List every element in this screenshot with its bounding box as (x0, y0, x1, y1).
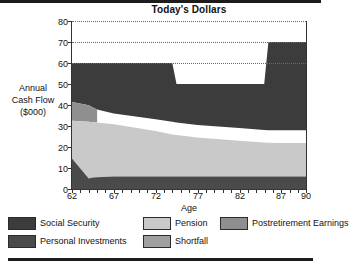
y-tick-label-70: 70 (42, 38, 68, 48)
x-tick-mark-65 (97, 189, 98, 193)
x-tick-mark-73 (164, 189, 165, 193)
y-tick-mark-60 (68, 63, 72, 64)
legend-swatch-shortfall (143, 235, 171, 248)
x-tick-mark-85 (265, 189, 266, 193)
x-tick-mark-70 (139, 189, 140, 193)
x-tick-mark-77 (198, 189, 199, 193)
x-tick-mark-82 (240, 189, 241, 193)
x-tick-mark-86 (273, 189, 274, 193)
y-tick-mark-40 (68, 105, 72, 106)
x-tick-mark-81 (231, 189, 232, 193)
y-tick-mark-80 (68, 21, 72, 22)
bottom-rule (8, 258, 313, 261)
x-tick-mark-89 (298, 189, 299, 193)
legend-swatch-postretirement-earnings (220, 217, 248, 230)
y-tick-label-10: 10 (42, 164, 68, 174)
chart-legend: Social Security Personal Investments Pen… (8, 216, 313, 252)
y-tick-label-20: 20 (42, 143, 68, 153)
x-tick-mark-71 (147, 189, 148, 193)
legend-label-social-security: Social Security (40, 216, 100, 230)
y-tick-mark-70 (68, 42, 72, 43)
legend-swatch-pension (143, 217, 171, 230)
legend-swatch-social-security (8, 217, 36, 230)
gridline-80 (72, 21, 306, 22)
x-tick-mark-66 (105, 189, 106, 193)
x-tick-mark-67 (114, 189, 115, 193)
x-tick-mark-64 (89, 189, 90, 193)
y-tick-mark-10 (68, 168, 72, 169)
plot-right-border (306, 21, 307, 190)
x-tick-mark-72 (156, 189, 157, 193)
gridline-60 (72, 63, 306, 64)
y-tick-mark-50 (68, 84, 72, 85)
x-axis-title: Age (72, 203, 306, 213)
x-tick-mark-75 (181, 189, 182, 193)
x-tick-mark-87 (281, 189, 282, 193)
y-tick-label-80: 80 (42, 17, 68, 27)
x-tick-mark-84 (256, 189, 257, 193)
x-tick-mark-79 (214, 189, 215, 193)
gridline-70 (72, 42, 306, 43)
y-tick-mark-30 (68, 126, 72, 127)
legend-label-pension: Pension (175, 216, 208, 230)
stacked-area-plot (72, 21, 306, 189)
x-tick-mark-78 (206, 189, 207, 193)
y-tick-label-40: 40 (42, 101, 68, 111)
x-tick-mark-80 (223, 189, 224, 193)
x-tick-mark-74 (172, 189, 173, 193)
x-tick-mark-62 (72, 189, 73, 193)
legend-label-personal-investments: Personal Investments (40, 234, 127, 248)
legend-label-postretirement-earnings: Postretirement Earnings (252, 216, 349, 230)
x-tick-mark-83 (248, 189, 249, 193)
y-tick-label-50: 50 (42, 80, 68, 90)
x-tick-mark-63 (80, 189, 81, 193)
plot-area (72, 21, 306, 189)
x-tick-mark-76 (189, 189, 190, 193)
area-social-security (72, 42, 306, 130)
chart-title: Today's Dollars (72, 4, 306, 15)
x-tick-mark-69 (131, 189, 132, 193)
y-tick-label-60: 60 (42, 59, 68, 69)
x-tick-mark-88 (290, 189, 291, 193)
x-tick-mark-68 (122, 189, 123, 193)
y-tick-label-30: 30 (42, 122, 68, 132)
legend-swatch-personal-investments (8, 235, 36, 248)
x-tick-mark-90 (306, 189, 307, 193)
legend-label-shortfall: Shortfall (175, 234, 208, 248)
y-tick-mark-20 (68, 147, 72, 148)
top-rule (0, 0, 321, 3)
